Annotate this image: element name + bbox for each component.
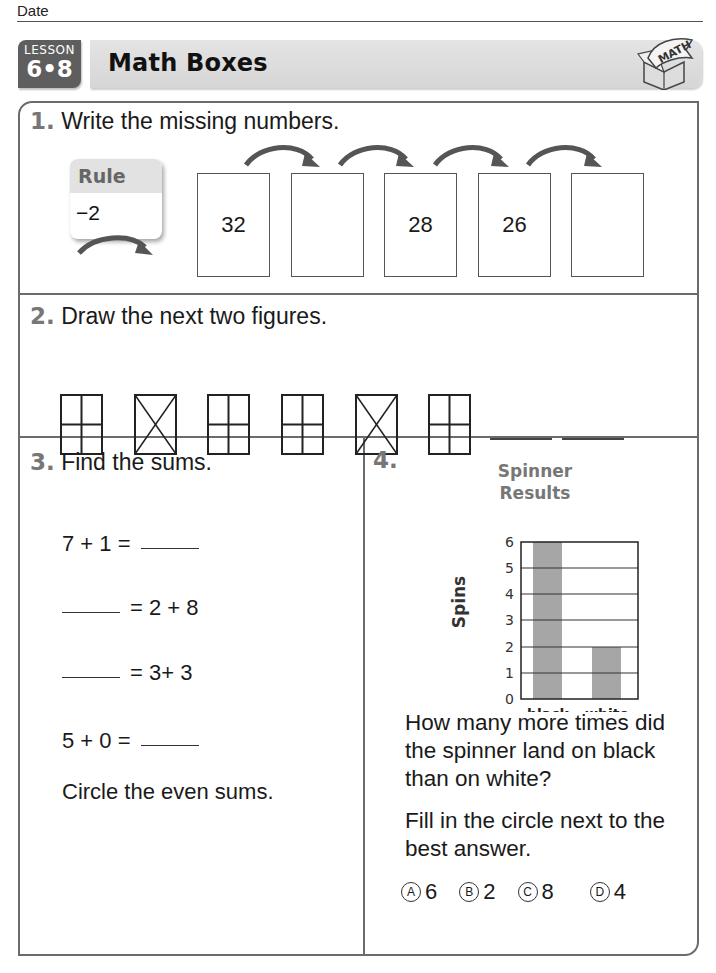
svg-text:4: 4 [505, 586, 514, 602]
problem-number: 3. [30, 449, 55, 475]
lesson-badge: LESSON 6•8 [18, 40, 81, 88]
bubble-icon[interactable]: B [459, 882, 479, 902]
number-box-blank[interactable] [571, 173, 644, 277]
number-box: 26 [478, 173, 551, 277]
problem-number: 2. [30, 303, 55, 329]
equation-text: = 2 + 8 [130, 595, 199, 621]
choice-value: 4 [614, 879, 626, 905]
svg-text:0: 0 [505, 691, 514, 707]
curved-arrow-icon [524, 139, 606, 169]
rule-value: −2 [70, 193, 162, 225]
divider [20, 293, 697, 295]
grid-figure-icon [207, 394, 250, 455]
prompt-text: Draw the next two figures. [61, 303, 327, 329]
problem-number-label: 4. [373, 447, 398, 473]
x-figure-icon [134, 394, 177, 455]
date-line[interactable] [17, 21, 703, 22]
choice-a[interactable]: A 6 [401, 879, 437, 905]
svg-text:1: 1 [505, 665, 514, 681]
svg-text:2: 2 [505, 639, 514, 655]
bubble-icon[interactable]: C [518, 882, 538, 902]
equation-text: 5 + 0 = [62, 728, 131, 754]
chart-title-line: Results [495, 482, 575, 504]
problem-number: 4. [373, 447, 398, 474]
problem-2-prompt: 2. Draw the next two figures. [30, 303, 327, 330]
equation-row: 5 + 0 = [62, 728, 199, 754]
math-box-icon: MATH [634, 32, 696, 90]
number-box-blank[interactable] [291, 173, 364, 277]
grid-figure-icon [281, 394, 324, 455]
answer-blank[interactable] [141, 745, 199, 746]
date-label: Date [17, 2, 49, 19]
answer-choices: A 6 B 2 C 8 D 4 [401, 879, 648, 905]
problem-number: 1. [30, 108, 55, 134]
answer-instruction: Fill in the circle next to the best answ… [405, 807, 695, 863]
choice-value: 8 [542, 879, 554, 905]
choice-value: 2 [483, 879, 495, 905]
svg-text:5: 5 [505, 560, 514, 576]
equation-row: = 2 + 8 [62, 595, 199, 621]
curved-arrow-icon [336, 139, 418, 169]
y-tick-labels: 6 5 4 3 2 1 0 [505, 534, 514, 707]
question-text: How many more times did the spinner land… [405, 709, 695, 793]
bar-chart: Spins 6 5 4 3 2 1 0 [425, 507, 655, 712]
title-bar: Math Boxes MATH [90, 40, 702, 88]
curved-arrow-icon [431, 139, 513, 169]
circle-instruction: Circle the even sums. [62, 779, 274, 805]
problem-1-prompt: 1. Write the missing numbers. [30, 108, 339, 135]
grid-figure-icon [60, 394, 103, 455]
equation-row: 7 + 1 = [62, 531, 199, 557]
prompt-text: Find the sums. [61, 449, 212, 475]
math-boxes-sheet: 1. Write the missing numbers. Rule −2 32… [18, 101, 699, 956]
choice-value: 6 [425, 879, 437, 905]
bubble-icon[interactable]: A [401, 882, 421, 902]
bubble-icon[interactable]: D [590, 882, 610, 902]
curved-arrow-icon [75, 231, 157, 257]
svg-text:6: 6 [505, 534, 514, 550]
equation-text: = 3+ 3 [130, 660, 192, 686]
lesson-word: LESSON [18, 44, 81, 56]
answer-blank[interactable] [62, 612, 120, 613]
problem-3-prompt: 3. Find the sums. [30, 449, 212, 476]
chart-title-line: Spinner [495, 460, 575, 482]
answer-blank[interactable] [141, 548, 199, 549]
svg-text:3: 3 [505, 612, 514, 628]
equation-text: 7 + 1 = [62, 531, 131, 557]
y-axis-label: Spins [449, 576, 469, 628]
choice-c[interactable]: C 8 [518, 879, 554, 905]
answer-blank[interactable] [62, 677, 120, 678]
equation-row: = 3+ 3 [62, 660, 192, 686]
problem-4: 4. Spinner Results Spins 6 5 [365, 437, 697, 954]
rule-box: Rule −2 [70, 159, 162, 239]
lesson-number: 6•8 [18, 56, 81, 82]
choice-b[interactable]: B 2 [459, 879, 495, 905]
number-box: 28 [384, 173, 457, 277]
page-title: Math Boxes [108, 49, 268, 77]
choice-d[interactable]: D 4 [590, 879, 626, 905]
curved-arrow-icon [242, 139, 324, 169]
chart-title: Spinner Results [495, 460, 575, 504]
rule-label: Rule [70, 159, 162, 193]
prompt-text: Write the missing numbers. [61, 108, 339, 134]
number-box: 32 [197, 173, 270, 277]
